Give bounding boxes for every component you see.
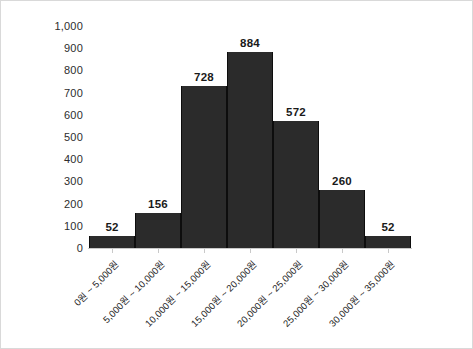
y-axis-tick-label: 100 bbox=[64, 220, 83, 232]
y-axis-tick-label: 0 bbox=[77, 242, 83, 254]
bar-value-label: 260 bbox=[319, 175, 365, 187]
bar-value-label: 52 bbox=[365, 221, 411, 233]
x-axis-tick-mark bbox=[296, 249, 297, 253]
bar bbox=[365, 236, 411, 248]
bar-column: 728 bbox=[181, 26, 227, 248]
y-axis-tick-label: 200 bbox=[64, 198, 83, 210]
x-axis-tick-mark bbox=[204, 249, 205, 253]
bar-value-label: 572 bbox=[273, 106, 319, 118]
x-axis-tick-mark bbox=[158, 249, 159, 253]
bar-value-label: 728 bbox=[181, 71, 227, 83]
y-axis-tick-label: 1,000 bbox=[54, 20, 83, 32]
x-axis-tick-mark bbox=[342, 249, 343, 253]
y-axis-tick-label: 600 bbox=[64, 109, 83, 121]
x-axis: 0원 ~ 5,000원5,000원 ~ 10,000원10,000원 ~ 15,… bbox=[89, 249, 411, 349]
y-axis-tick-label: 500 bbox=[64, 131, 83, 143]
x-axis-tick-mark bbox=[388, 249, 389, 253]
bar bbox=[319, 190, 365, 248]
bar bbox=[273, 121, 319, 248]
x-axis-tick-mark bbox=[250, 249, 251, 253]
x-axis-tick-mark bbox=[112, 249, 113, 253]
y-axis-tick-label: 800 bbox=[64, 64, 83, 76]
bar-column: 52 bbox=[365, 26, 411, 248]
chart-container: 1,0009008007006005004003002001000 521567… bbox=[0, 0, 473, 349]
bar-column: 884 bbox=[227, 26, 273, 248]
bar bbox=[181, 86, 227, 248]
y-axis: 1,0009008007006005004003002001000 bbox=[31, 26, 83, 248]
x-axis-tick: 30,000원 ~ 35,000원 bbox=[365, 249, 411, 349]
bar-column: 52 bbox=[89, 26, 135, 248]
bar bbox=[135, 213, 181, 248]
bar-column: 260 bbox=[319, 26, 365, 248]
y-axis-tick-label: 700 bbox=[64, 87, 83, 99]
bar-column: 572 bbox=[273, 26, 319, 248]
bar-series: 5215672888457226052 bbox=[89, 26, 411, 248]
bar-column: 156 bbox=[135, 26, 181, 248]
bar-value-label: 156 bbox=[135, 198, 181, 210]
y-axis-tick-label: 300 bbox=[64, 175, 83, 187]
bar-value-label: 52 bbox=[89, 221, 135, 233]
plot-area: 5215672888457226052 bbox=[89, 26, 411, 248]
bar-value-label: 884 bbox=[227, 37, 273, 49]
y-axis-tick-label: 400 bbox=[64, 153, 83, 165]
y-axis-tick-label: 900 bbox=[64, 42, 83, 54]
bar bbox=[227, 52, 273, 248]
bar bbox=[89, 236, 135, 248]
